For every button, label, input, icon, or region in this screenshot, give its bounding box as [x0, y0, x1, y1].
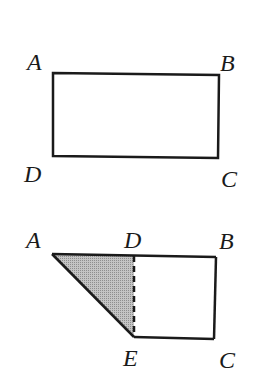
- figure-rectangle: A B D C: [23, 49, 238, 192]
- label-d-folded: D: [123, 227, 141, 253]
- label-b: B: [220, 50, 235, 76]
- geometry-diagram: A B D C A D B E C: [0, 0, 256, 384]
- figure-folded: A D B E C: [24, 227, 236, 373]
- label-c: C: [221, 166, 238, 192]
- label-a: A: [25, 49, 42, 75]
- label-c-folded: C: [219, 347, 236, 373]
- label-d: D: [23, 161, 41, 187]
- rectangle-abcd: [53, 73, 219, 158]
- label-a-folded: A: [24, 227, 41, 253]
- label-b-folded: B: [219, 228, 234, 254]
- segment-bc: [214, 257, 216, 339]
- segment-ec: [134, 337, 214, 339]
- label-e-folded: E: [122, 345, 138, 371]
